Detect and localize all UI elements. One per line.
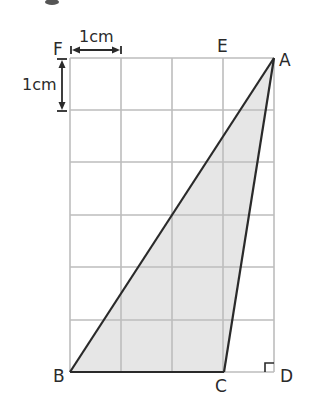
cropped-glyph-fragment <box>45 0 59 5</box>
vertical-scale-label: 1cm <box>22 75 57 94</box>
right-angle-marker <box>265 363 274 372</box>
point-label-b: B <box>53 366 65 386</box>
point-label-e: E <box>217 36 228 56</box>
horizontal-scale-arrow <box>71 46 121 54</box>
horizontal-scale-label: 1cm <box>79 27 114 46</box>
point-label-f: F <box>53 39 63 59</box>
point-label-c: C <box>215 376 227 396</box>
point-label-d: D <box>280 366 293 386</box>
vertical-scale-arrow <box>57 59 67 111</box>
point-label-a: A <box>279 50 291 70</box>
triangle-grid-diagram: 1cm 1cm F E A B C D <box>0 0 311 404</box>
